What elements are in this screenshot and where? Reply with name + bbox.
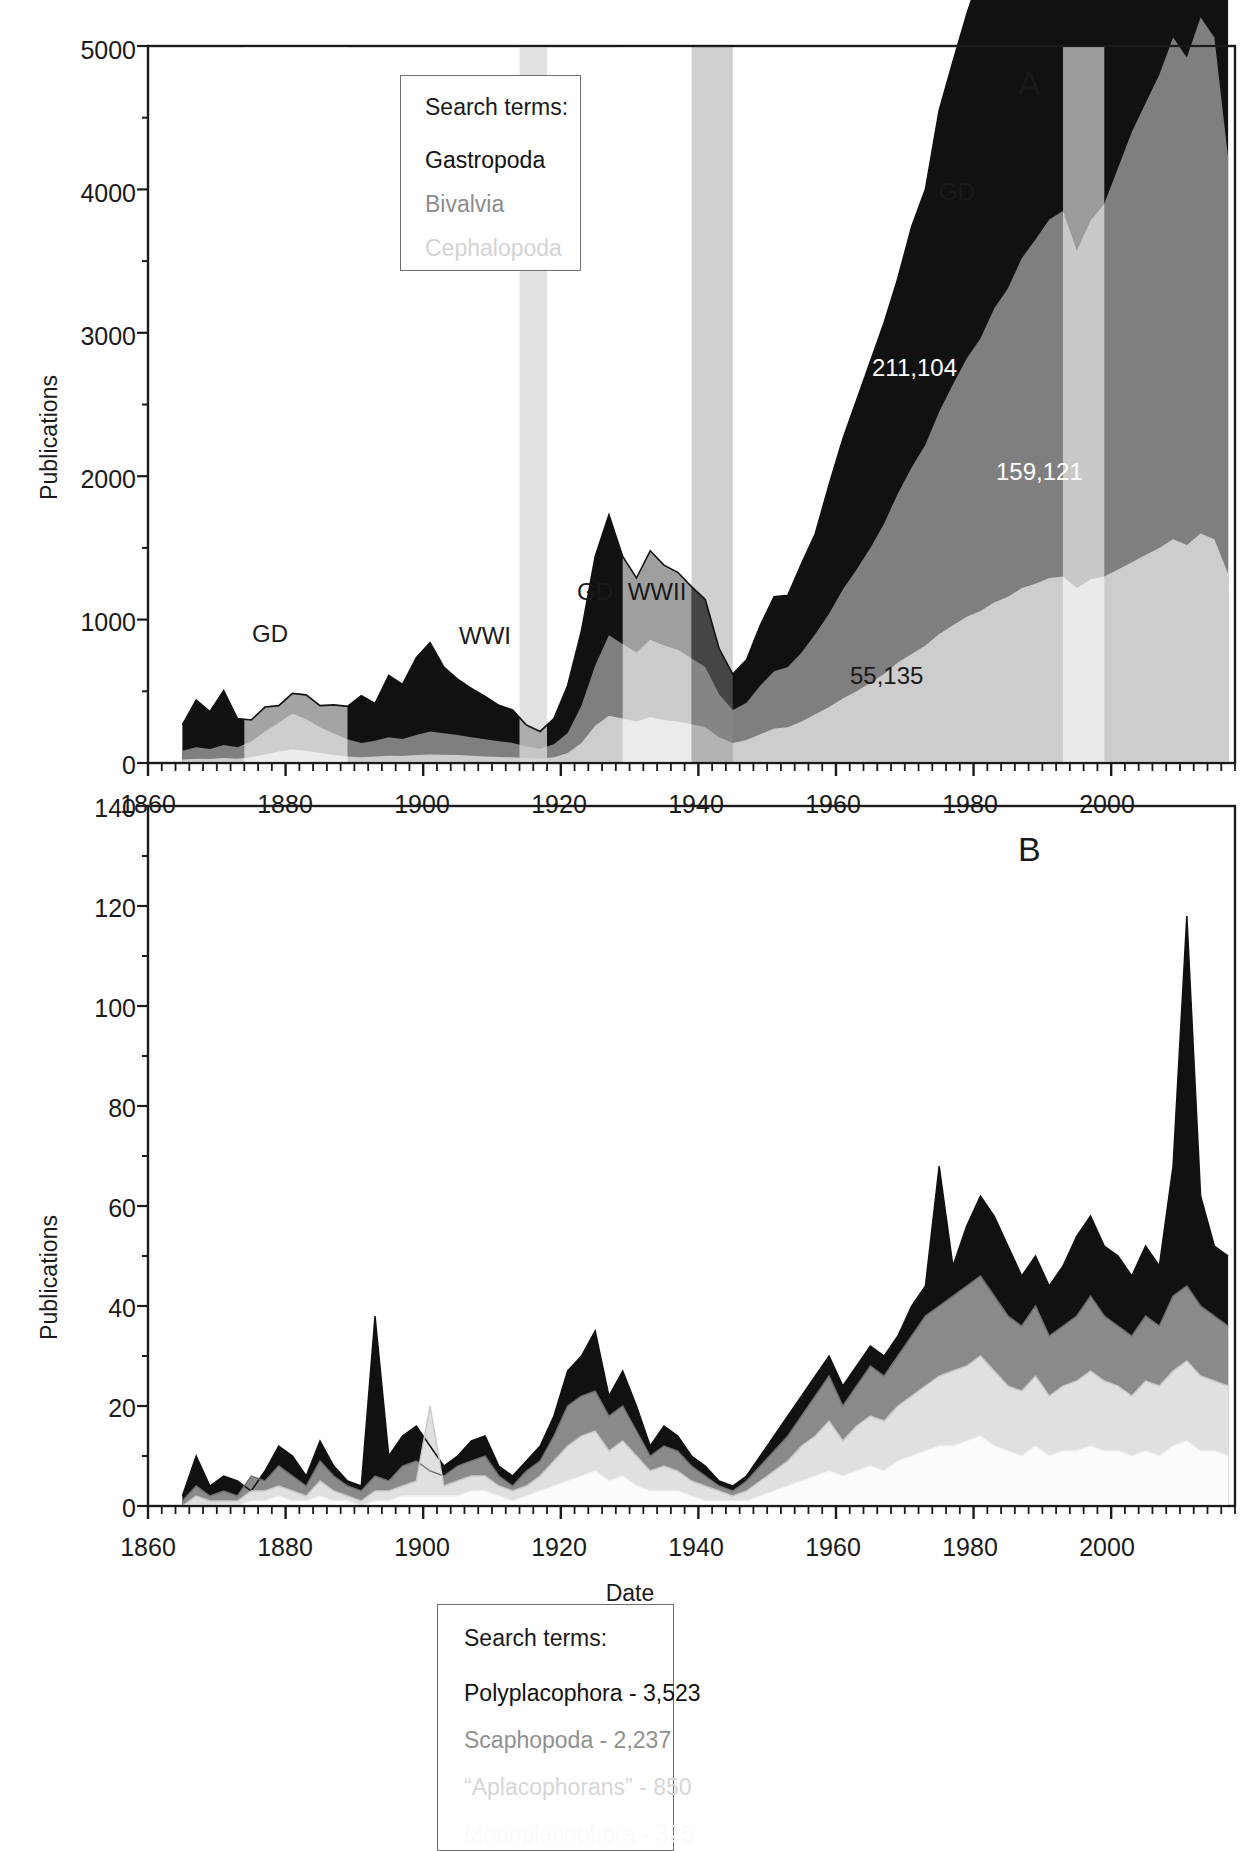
panel-b: Publications 140 120 100 80 60 40 20 0 1… bbox=[0, 780, 1258, 1754]
panel-b-x-axis-title: Date bbox=[520, 1580, 740, 1607]
panel-b-legend-item-scaphopoda: Scaphopoda - 2,237 bbox=[464, 1727, 673, 1754]
panel-a-annotation-cephalopoda: 55,135 bbox=[850, 662, 923, 690]
panel-a-plot bbox=[0, 0, 1258, 790]
panel-b-legend: Search terms: Polyplacophora - 3,523 Sca… bbox=[437, 1604, 674, 1851]
panel-a-annotation-gastropoda: 211,104 bbox=[872, 354, 957, 382]
panel-b-legend-item-monoplacophora: Monoplacophora - 325 bbox=[464, 1821, 673, 1848]
panel-a-event-label-wwii: WWII bbox=[612, 578, 702, 606]
panel-a-event-label-gd-1880: GD bbox=[225, 620, 315, 648]
panel-a-annotation-bivalvia: 159,121 bbox=[996, 458, 1083, 486]
panel-b-legend-item-polyplacophora: Polyplacophora - 3,523 bbox=[464, 1680, 673, 1707]
panel-b-legend-title: Search terms: bbox=[464, 1625, 673, 1652]
panel-a-event-label-gd-1995: GD bbox=[912, 178, 1002, 206]
panel-a-event-label-wwi: WWI bbox=[440, 622, 530, 650]
panel-a-legend-item-cephalopoda: Cephalopoda bbox=[425, 235, 580, 262]
panel-a-legend-item-gastropoda: Gastropoda bbox=[425, 147, 580, 174]
panel-b-letter: B bbox=[1018, 830, 1041, 869]
panel-a-legend-item-bivalvia: Bivalvia bbox=[425, 191, 580, 218]
panel-a-letter: A bbox=[1018, 64, 1041, 103]
panel-a-legend-title: Search terms: bbox=[425, 94, 580, 121]
panel-a-legend: Search terms: Gastropoda Bivalvia Cephal… bbox=[400, 75, 581, 271]
panel-b-legend-item-aplacophorans: “Aplacophorans” - 850 bbox=[464, 1774, 673, 1801]
panel-a: Publications 5000 4000 3000 2000 1000 0 … bbox=[0, 0, 1258, 790]
